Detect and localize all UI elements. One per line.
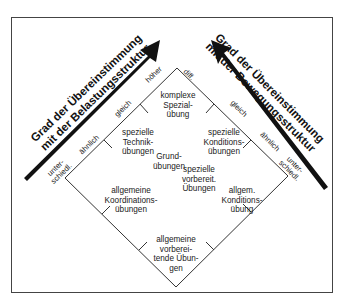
cell-line: allgemeine [146, 235, 206, 245]
cell-line: vorberei- [146, 245, 206, 255]
cell-allgemeine-koordinationsuebungen: allgemeine Koordinations- übungen [98, 186, 164, 215]
cell-line: Grund- [144, 152, 194, 162]
cell-line: Konditions- [192, 138, 256, 148]
cell-line: komplexe [150, 91, 206, 101]
cell-line: allgemeine [98, 186, 164, 196]
cell-spezielle-konditionsuebungen: spezielle Konditions- übungen [192, 128, 256, 157]
cell-line: übung [150, 110, 206, 120]
cell-line: Spezial- [150, 101, 206, 111]
cell-line: Koordinations- [98, 196, 164, 206]
cell-line: vorbereit. [172, 175, 226, 185]
cell-line: spezielle [192, 128, 256, 138]
cell-line: übung [214, 205, 270, 215]
cell-allgem-konditionsuebung: allgem. Konditions- übung [214, 186, 270, 215]
cell-allgemeine-vorbereitende-uebungen: allgemeine vorberei- tende Übun- gen [146, 235, 206, 273]
cell-line: spezielle [172, 165, 226, 175]
cell-line: tende Übun- [146, 254, 206, 264]
cell-line: übungen [98, 205, 164, 215]
cell-line: spezielle [110, 128, 166, 138]
cell-line: übungen [192, 147, 256, 157]
cell-komplexe-spezialuebung: komplexe Spezial- übung [150, 91, 206, 120]
cell-line: Konditions- [214, 196, 270, 206]
cell-line: allgem. [214, 186, 270, 196]
cell-line: Technik- [110, 138, 166, 148]
cell-line: gen [146, 264, 206, 274]
